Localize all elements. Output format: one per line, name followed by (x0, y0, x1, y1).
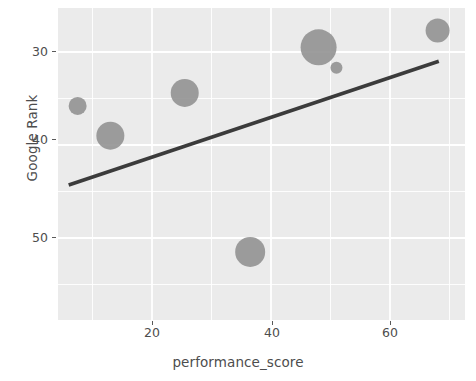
trend-line (69, 61, 439, 185)
y-tick-mark-50 (52, 237, 56, 238)
y-tick-label-30: 30 (4, 46, 48, 58)
scatter-plot-figure: Google Rank performance_score 30 40 50 2… (0, 0, 476, 381)
data-point (330, 62, 342, 74)
x-tick-label-20: 20 (129, 327, 175, 339)
y-tick-label-50: 50 (4, 232, 48, 244)
x-tick-label-60: 60 (367, 327, 413, 339)
plot-panel (58, 8, 465, 320)
x-tick-label-40: 40 (249, 327, 295, 339)
y-tick-mark-30 (52, 51, 56, 52)
data-point (426, 19, 450, 43)
data-point (96, 122, 124, 150)
y-tick-label-40: 40 (4, 134, 48, 146)
data-point (171, 79, 199, 107)
data-points (69, 19, 450, 267)
data-point (235, 237, 265, 267)
data-point (69, 97, 87, 115)
grid-lines (58, 8, 465, 320)
plot-canvas (58, 8, 465, 320)
y-tick-mark-40 (52, 139, 56, 140)
data-point (301, 29, 337, 65)
x-axis-title: performance_score (0, 354, 476, 370)
